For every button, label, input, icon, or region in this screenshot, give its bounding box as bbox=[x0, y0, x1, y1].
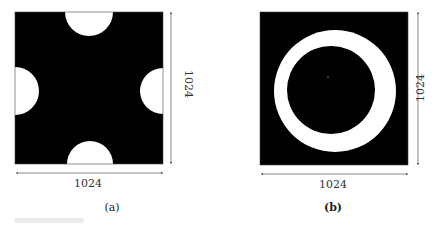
width-label: 1024 bbox=[74, 177, 102, 190]
panel-caption: (a) bbox=[104, 201, 119, 214]
panel-a: 1024 1024 (a) bbox=[0, 0, 195, 214]
height-label: 1024 bbox=[182, 70, 195, 98]
center-dot bbox=[327, 76, 329, 78]
ring-inner bbox=[287, 46, 375, 134]
panel-caption: (b) bbox=[324, 201, 342, 214]
cropped-caption-remnant bbox=[14, 218, 84, 223]
mask-a bbox=[0, 0, 186, 187]
height-label: 1024 bbox=[414, 74, 427, 102]
panel-b: 1024 1024 (b) bbox=[260, 12, 427, 214]
figure: 1024 1024 (a) 1024 1024 (b) bbox=[0, 0, 443, 227]
width-label: 1024 bbox=[319, 178, 347, 191]
